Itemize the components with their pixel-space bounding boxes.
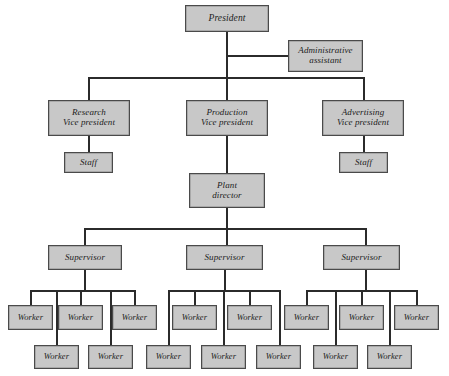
node-supervisor-2[interactable]: Supervisor	[186, 245, 263, 270]
node-worker-1-3-label: Worker	[122, 313, 147, 322]
connector-research-to-staff	[88, 136, 90, 152]
node-worker-1-4[interactable]: Worker	[34, 345, 79, 369]
node-plant-director-label: Plant director	[212, 181, 241, 201]
connector-supervisor-1-drop	[84, 228, 86, 245]
node-worker-1-3[interactable]: Worker	[112, 305, 157, 330]
node-worker-2-1-label: Worker	[182, 313, 207, 322]
connector-advertising-to-staff	[363, 136, 365, 152]
connector-worker-3-5-drop	[389, 290, 391, 345]
node-worker-1-1[interactable]: Worker	[8, 305, 53, 330]
node-worker-3-4[interactable]: Worker	[313, 345, 358, 369]
node-worker-2-2-label: Worker	[237, 313, 262, 322]
node-staff-research-label: Staff	[80, 158, 97, 168]
connector-president-to-admin	[226, 55, 288, 57]
connector-vp-bus	[88, 77, 365, 79]
connector-worker-3-4-drop	[335, 290, 337, 345]
node-worker-3-2[interactable]: Worker	[339, 305, 384, 330]
connector-plant-stem	[226, 208, 228, 245]
node-vice-president-research-label: Research Vice president	[63, 108, 115, 128]
node-worker-2-2[interactable]: Worker	[227, 305, 272, 330]
connector-supervisor-2-stem	[224, 270, 226, 291]
node-vice-president-production[interactable]: Production Vice president	[186, 100, 268, 136]
node-worker-2-5[interactable]: Worker	[256, 345, 301, 369]
node-vice-president-advertising[interactable]: Advertising Vice president	[322, 100, 404, 136]
node-staff-research[interactable]: Staff	[64, 152, 113, 173]
connector-production-to-plant	[226, 136, 228, 173]
node-worker-1-5[interactable]: Worker	[88, 345, 133, 369]
node-supervisor-3-label: Supervisor	[342, 253, 382, 263]
connector-worker-2-5-drop	[279, 290, 281, 345]
node-worker-3-4-label: Worker	[323, 352, 348, 361]
node-worker-2-4-label: Worker	[211, 352, 236, 361]
node-worker-1-5-label: Worker	[98, 352, 123, 361]
node-vice-president-production-label: Production Vice president	[201, 108, 253, 128]
connector-worker-2-4-drop	[223, 290, 225, 345]
node-supervisor-2-label: Supervisor	[205, 253, 245, 263]
connector-supervisor-1-row1-bus	[30, 290, 136, 292]
node-supervisor-1[interactable]: Supervisor	[48, 245, 122, 270]
connector-supervisor-bus	[84, 228, 367, 230]
connector-president-stem	[226, 32, 228, 100]
node-worker-2-3[interactable]: Worker	[146, 345, 191, 369]
connector-vp-research-drop	[88, 77, 90, 100]
connector-worker-2-1-drop	[194, 290, 196, 305]
org-chart: President Administrative assistant Resea…	[0, 0, 449, 376]
connector-worker-1-3-drop	[134, 290, 136, 305]
node-worker-2-3-label: Worker	[156, 352, 181, 361]
node-administrative-assistant-label: Administrative assistant	[298, 46, 352, 66]
connector-worker-3-2-drop	[361, 290, 363, 305]
node-worker-2-4[interactable]: Worker	[201, 345, 246, 369]
node-worker-3-3-label: Worker	[404, 313, 429, 322]
node-worker-1-4-label: Worker	[44, 352, 69, 361]
connector-worker-2-3-drop	[168, 290, 170, 345]
node-vice-president-research[interactable]: Research Vice president	[48, 100, 130, 136]
connector-worker-3-3-drop	[416, 290, 418, 305]
node-plant-director[interactable]: Plant director	[189, 173, 265, 208]
node-worker-3-1[interactable]: Worker	[284, 305, 329, 330]
node-worker-2-5-label: Worker	[266, 352, 291, 361]
node-worker-2-1[interactable]: Worker	[172, 305, 217, 330]
connector-worker-2-2-drop	[249, 290, 251, 305]
node-vice-president-advertising-label: Advertising Vice president	[337, 108, 389, 128]
node-staff-advertising-label: Staff	[355, 158, 372, 168]
connector-worker-1-2-drop	[80, 290, 82, 305]
node-supervisor-3[interactable]: Supervisor	[323, 245, 400, 270]
node-worker-3-3[interactable]: Worker	[394, 305, 439, 330]
node-worker-1-2[interactable]: Worker	[58, 305, 103, 330]
connector-supervisor-3-stem	[365, 270, 367, 291]
connector-supervisor-1-stem	[84, 270, 86, 291]
node-worker-3-1-label: Worker	[294, 313, 319, 322]
connector-vp-advertising-drop	[363, 77, 365, 100]
node-president-label: President	[209, 13, 246, 23]
node-worker-3-5[interactable]: Worker	[367, 345, 412, 369]
node-president[interactable]: President	[185, 5, 269, 32]
node-staff-advertising[interactable]: Staff	[339, 152, 388, 173]
connector-supervisor-3-drop	[365, 228, 367, 245]
node-administrative-assistant[interactable]: Administrative assistant	[288, 40, 363, 72]
node-worker-1-1-label: Worker	[18, 313, 43, 322]
node-supervisor-1-label: Supervisor	[65, 253, 105, 263]
node-worker-3-2-label: Worker	[349, 313, 374, 322]
node-worker-1-2-label: Worker	[68, 313, 93, 322]
connector-worker-1-1-drop	[30, 290, 32, 305]
connector-worker-3-1-drop	[306, 290, 308, 305]
node-worker-3-5-label: Worker	[377, 352, 402, 361]
